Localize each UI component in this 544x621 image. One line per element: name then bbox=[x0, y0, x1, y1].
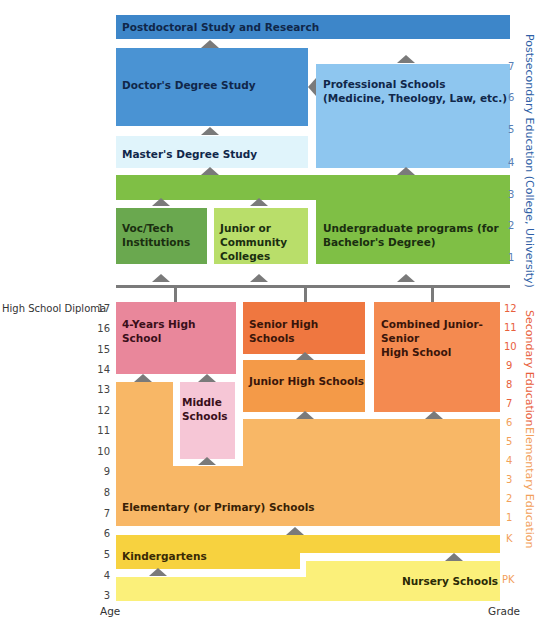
arrow-up-icon bbox=[296, 352, 314, 360]
nursery-label: Nursery Schools bbox=[402, 574, 498, 588]
professional-label: Professional Schools (Medicine, Theology… bbox=[323, 77, 507, 105]
arrow-up-icon bbox=[198, 374, 216, 382]
arrow-up-icon bbox=[445, 553, 463, 561]
arrow-up-icon bbox=[250, 274, 268, 282]
arrow-left-icon bbox=[308, 78, 316, 96]
age-tick: 10 bbox=[86, 446, 110, 457]
age-tick: 7 bbox=[86, 508, 110, 519]
voc-tech-label: Voc/Tech Institutions bbox=[122, 221, 190, 249]
kindergarten-label: Kindergartens bbox=[122, 549, 207, 563]
age-tick: 3 bbox=[86, 590, 110, 601]
arrow-up-icon bbox=[250, 198, 268, 206]
senior-hs-label: Senior High Schools bbox=[249, 317, 365, 345]
junior-hs-label: Junior High Schools bbox=[249, 374, 364, 388]
secondary-label: Secondary Education bbox=[523, 310, 536, 427]
doctor-block: Doctor's Degree Study bbox=[116, 48, 308, 126]
age-tick: 16 bbox=[86, 323, 110, 334]
masters-block: Master's Degree Study bbox=[116, 136, 308, 168]
age-tick: 14 bbox=[86, 364, 110, 375]
grade-tick-prek: PK bbox=[502, 574, 526, 585]
arrow-up-icon bbox=[152, 274, 170, 282]
age-axis-title: Age bbox=[100, 605, 120, 617]
arrow-up-icon bbox=[425, 411, 443, 419]
arrow-up-icon bbox=[198, 457, 216, 465]
postdoc-block: Postdoctoral Study and Research bbox=[116, 15, 510, 39]
combined-hs-label: Combined Junior-Senior High School bbox=[381, 317, 500, 359]
junior-college-block: Junior or Community Colleges bbox=[214, 208, 308, 264]
elementary-label: Elementary (or Primary) Schools bbox=[122, 500, 315, 514]
junior-hs-block: Junior High Schools bbox=[243, 360, 365, 412]
middle-schools-label: Middle Schools bbox=[182, 395, 228, 423]
age-tick: 17 bbox=[86, 303, 110, 314]
age-tick: 4 bbox=[86, 570, 110, 581]
connector-line bbox=[304, 286, 307, 303]
senior-hs-block: Senior High Schools bbox=[243, 302, 365, 354]
arrow-up-icon bbox=[201, 40, 219, 48]
arrow-up-icon bbox=[397, 274, 415, 282]
postsecondary-label: Postsecondary Education (College, Univer… bbox=[523, 34, 536, 288]
arrow-up-icon bbox=[397, 55, 415, 63]
connector-line bbox=[174, 286, 177, 303]
age-tick: 15 bbox=[86, 344, 110, 355]
age-tick: 9 bbox=[86, 466, 110, 477]
arrow-up-icon bbox=[152, 198, 170, 206]
arrow-up-icon bbox=[296, 411, 314, 419]
undergrad-band bbox=[116, 175, 510, 200]
masters-label: Master's Degree Study bbox=[122, 147, 257, 161]
voc-tech-block: Voc/Tech Institutions bbox=[116, 208, 207, 264]
elementary-edu-label: Elementary Education bbox=[523, 427, 536, 549]
postdoc-label: Postdoctoral Study and Research bbox=[122, 20, 319, 34]
undergrad-label: Undergraduate programs (for Bachelor's D… bbox=[323, 221, 499, 249]
junior-college-label: Junior or Community Colleges bbox=[220, 221, 287, 263]
age-tick: 6 bbox=[86, 528, 110, 539]
combined-hs-block: Combined Junior-Senior High School bbox=[374, 302, 500, 412]
age-tick: 8 bbox=[86, 487, 110, 498]
elementary-block-right bbox=[243, 419, 500, 479]
connector-line bbox=[431, 286, 434, 303]
age-tick: 5 bbox=[86, 549, 110, 560]
arrow-up-icon bbox=[201, 127, 219, 135]
arrow-up-icon bbox=[134, 374, 152, 382]
arrow-up-icon bbox=[201, 167, 219, 175]
four-year-hs-label: 4-Years High School bbox=[122, 317, 236, 345]
arrow-up-icon bbox=[397, 167, 415, 175]
four-year-hs-block: 4-Years High School bbox=[116, 302, 236, 374]
age-tick: 12 bbox=[86, 405, 110, 416]
nursery-block-left bbox=[116, 577, 306, 601]
middle-schools-block: Middle Schools bbox=[180, 382, 235, 459]
professional-block: Professional Schools (Medicine, Theology… bbox=[316, 64, 510, 168]
arrow-up-icon bbox=[286, 527, 304, 535]
undergrad-block: Undergraduate programs (for Bachelor's D… bbox=[316, 200, 510, 264]
arrow-up-icon bbox=[149, 568, 167, 576]
grade-axis-title: Grade bbox=[488, 605, 520, 617]
age-tick: 13 bbox=[86, 384, 110, 395]
doctor-label: Doctor's Degree Study bbox=[122, 78, 256, 92]
age-tick: 11 bbox=[86, 425, 110, 436]
